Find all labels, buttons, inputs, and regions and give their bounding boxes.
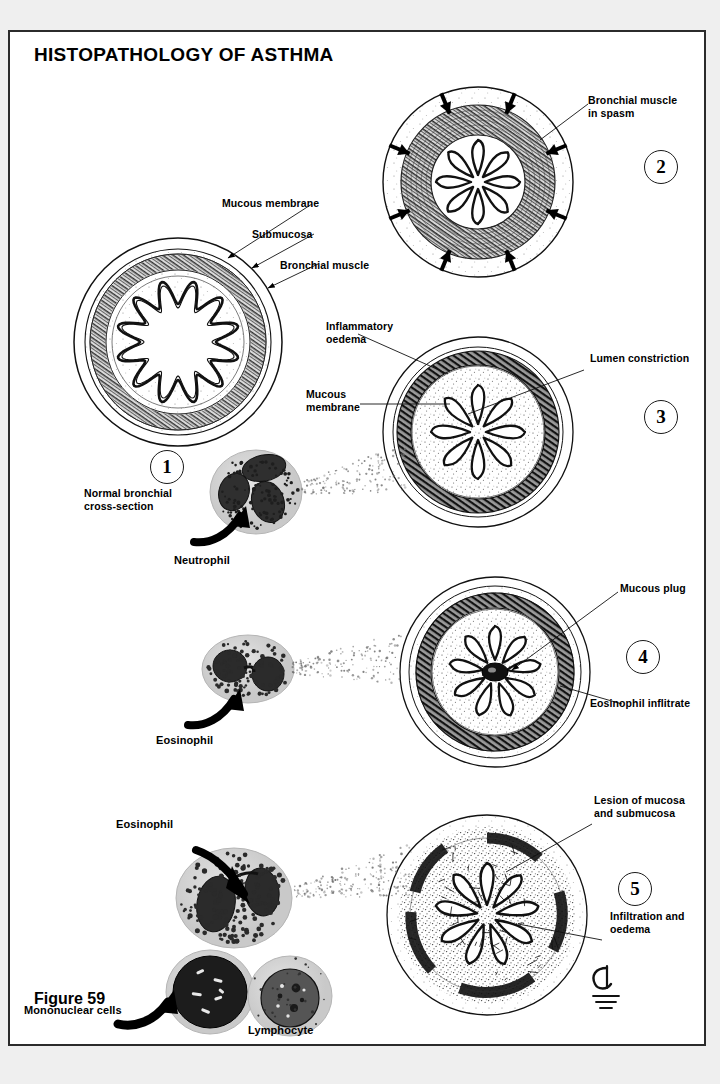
cell-trail bbox=[291, 635, 401, 684]
bronchus-cross-section-4 bbox=[400, 577, 590, 767]
figure-caption: Figure 59 bbox=[34, 990, 105, 1008]
panel-2-bronchospasm bbox=[378, 82, 578, 282]
panel-2-label-muscle-spasm: Bronchial muscle in spasm bbox=[588, 94, 677, 119]
panel-4-number: 4 bbox=[626, 640, 660, 674]
figure-page: HISTOPATHOLOGY OF ASTHMA bbox=[0, 0, 720, 1084]
panel-1-number: 1 bbox=[150, 450, 184, 484]
panel-1-label-bronchial-muscle: Bronchial muscle bbox=[280, 259, 369, 272]
bronchus-cross-section-2 bbox=[383, 87, 573, 277]
lymphocyte-label: Lymphocyte bbox=[248, 1024, 313, 1037]
panel-5-number: 5 bbox=[618, 872, 652, 906]
eosinophil-bottom-label: Eosinophil bbox=[116, 818, 173, 831]
panel-5-mucosal-lesion bbox=[382, 810, 592, 1020]
figure-frame: HISTOPATHOLOGY OF ASTHMA bbox=[8, 30, 706, 1046]
cell-trail bbox=[294, 844, 411, 898]
panel-3-label-lumen-constriction: Lumen constriction bbox=[590, 352, 689, 365]
cell-trail bbox=[301, 446, 406, 495]
panel-4-mucous-plug bbox=[395, 572, 595, 772]
cell-neutrophil bbox=[206, 440, 406, 560]
panel-1-label-mucous-membrane: Mucous membrane bbox=[222, 197, 319, 210]
page-title: HISTOPATHOLOGY OF ASTHMA bbox=[34, 44, 334, 66]
panel-4-label-mucous-plug: Mucous plug bbox=[620, 582, 686, 595]
panel-2-number: 2 bbox=[644, 150, 678, 184]
eosinophil-middle-label: Eosinophil bbox=[156, 734, 213, 747]
eosinophil-body bbox=[176, 848, 292, 948]
panel-4-label-eosinophil-infiltrate: Eosinophil inflitrate bbox=[590, 697, 690, 710]
cell-lymphocyte bbox=[238, 944, 348, 1054]
panel-1-label-submucosa: Submucosa bbox=[252, 228, 312, 241]
neutrophil-body bbox=[210, 450, 302, 534]
neutrophil-label: Neutrophil bbox=[174, 554, 230, 567]
panel-5-label-infiltration: Infiltration and oedema bbox=[610, 910, 685, 935]
bronchus-cross-section-3 bbox=[383, 337, 573, 527]
panel-3-label-inflammatory-oedema: Inflammatory oedema bbox=[326, 320, 393, 345]
panel-1-normal-bronchus bbox=[68, 232, 288, 452]
cell-eosinophil-middle bbox=[196, 624, 406, 734]
artist-signature bbox=[585, 962, 631, 1016]
eosinophil-body bbox=[202, 635, 294, 703]
panel-5-label-lesion: Lesion of mucosa and submucosa bbox=[594, 794, 685, 819]
panel-3-number: 3 bbox=[644, 400, 678, 434]
bronchus-cross-section-5 bbox=[387, 815, 587, 1015]
panel-1-caption: Normal bronchial cross-section bbox=[84, 487, 172, 512]
panel-3-label-mucous-membrane: Mucous membrane bbox=[306, 388, 360, 413]
bronchus-cross-section-1 bbox=[74, 238, 282, 446]
panel-3-inflammatory-oedema bbox=[378, 332, 578, 532]
